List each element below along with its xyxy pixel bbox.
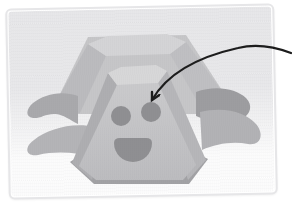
flipper-upper-left [27,93,78,124]
flipper-lower-right [200,110,261,150]
creature-illustration [0,0,292,211]
right-eye [141,102,161,122]
page-root [0,0,292,211]
left-eye [111,106,131,126]
